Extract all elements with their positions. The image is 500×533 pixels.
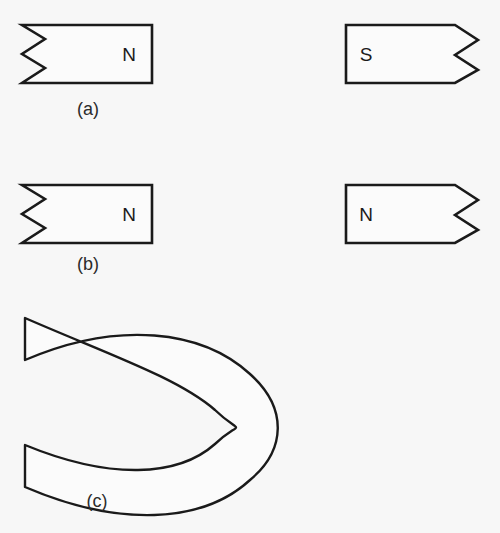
- magnet-figure: N S (a) N N (b) (c): [0, 0, 500, 533]
- pole-label-a-right: S: [360, 44, 373, 65]
- pole-label-a-left: N: [122, 44, 136, 65]
- panel-label-c: (c): [87, 491, 108, 511]
- figure-canvas: N S (a) N N (b) (c): [0, 0, 500, 533]
- horseshoe-magnet: [25, 318, 278, 515]
- pole-label-b-left: N: [122, 204, 136, 225]
- panel-label-a: (a): [77, 99, 99, 119]
- panel-label-b: (b): [77, 254, 99, 274]
- panel-a: N S (a): [22, 25, 478, 119]
- panel-c: (c): [25, 318, 278, 515]
- panel-b: N N (b): [22, 185, 478, 274]
- pole-label-b-right: N: [359, 204, 373, 225]
